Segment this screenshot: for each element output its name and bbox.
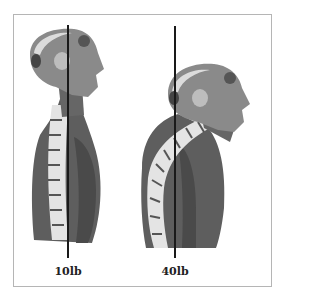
plumb-line-neutral bbox=[67, 25, 69, 258]
load-label-neutral: 10lb bbox=[48, 265, 88, 278]
figure-forward-posture bbox=[138, 58, 263, 250]
plumb-line-forward bbox=[174, 26, 176, 258]
load-label-forward: 40lb bbox=[155, 265, 195, 278]
anatomy-forward-illustration bbox=[138, 58, 263, 250]
